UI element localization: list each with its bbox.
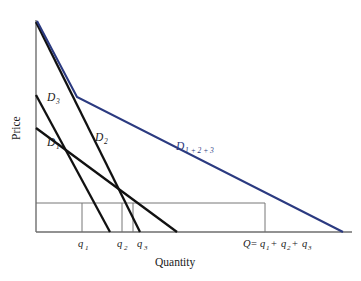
svg-text:D: D <box>94 131 104 143</box>
svg-text:1: 1 <box>85 244 89 252</box>
svg-text:1: 1 <box>266 244 270 252</box>
demand-curve-3-label: D 3 <box>46 91 60 106</box>
market-demand-curve <box>37 21 343 232</box>
svg-text:=: = <box>251 238 257 249</box>
x-tick-total-Q: Q = q 1 + q 2 + q 3 <box>243 238 312 252</box>
svg-text:q: q <box>281 238 286 249</box>
svg-text:1: 1 <box>56 142 60 151</box>
plot-canvas: D 1 D 2 D 3 D 1 + 2 + 3 q 1 q 2 q 3 <box>0 0 361 281</box>
demand-curve-figure: D 1 D 2 D 3 D 1 + 2 + 3 q 1 q 2 q 3 <box>0 0 361 281</box>
svg-text:q: q <box>78 238 83 249</box>
svg-text:D: D <box>46 136 56 148</box>
x-tick-q3: q 3 <box>137 238 148 252</box>
x-tick-q1: q 1 <box>78 238 89 252</box>
svg-text:2: 2 <box>287 244 291 252</box>
svg-text:3: 3 <box>55 97 60 106</box>
demand-curve-3 <box>36 95 110 232</box>
svg-text:q: q <box>260 238 265 249</box>
svg-text:q: q <box>302 238 307 249</box>
svg-text:+: + <box>292 238 298 249</box>
svg-text:2: 2 <box>104 137 108 146</box>
y-axis-title: Price <box>10 116 22 140</box>
svg-text:3: 3 <box>307 244 312 252</box>
svg-text:D: D <box>175 140 185 152</box>
demand-curve-2 <box>36 22 140 232</box>
x-axis-title: Quantity <box>155 256 195 269</box>
svg-text:q: q <box>137 238 142 249</box>
demand-curve-1-label: D 1 <box>46 136 60 151</box>
svg-text:Q: Q <box>243 238 251 249</box>
svg-text:D: D <box>46 91 56 103</box>
svg-text:q: q <box>117 238 122 249</box>
x-tick-q2: q 2 <box>117 238 128 252</box>
svg-text:1 + 2 + 3: 1 + 2 + 3 <box>185 146 214 155</box>
svg-text:+: + <box>271 238 277 249</box>
svg-text:3: 3 <box>143 244 148 252</box>
svg-text:2: 2 <box>124 244 128 252</box>
market-demand-curve-label: D 1 + 2 + 3 <box>175 140 214 155</box>
